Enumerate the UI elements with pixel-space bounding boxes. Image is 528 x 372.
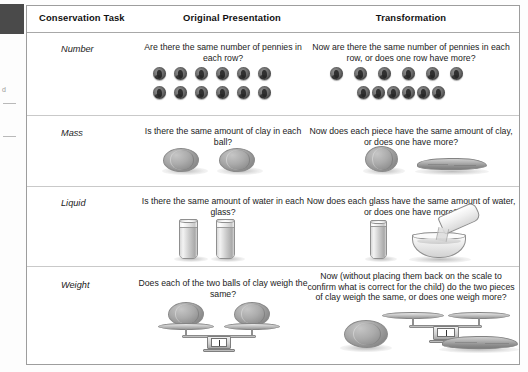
transformation-prompt-liquid: Now does each glass have the same amount… (305, 196, 517, 217)
scan-margin-mark-1: d (2, 86, 6, 94)
scan-corner-block (0, 4, 24, 34)
figure-page: d Conservation Task Original Presentatio… (0, 0, 528, 372)
task-label-weight: Weight (61, 280, 89, 290)
original-prompt-liquid: Is there the same amount of water in eac… (137, 196, 309, 217)
original-prompt-number: Are there the same number of pennies in … (137, 42, 309, 63)
column-header-transformation: Transformation (307, 12, 515, 23)
table-row: Liquid Is there the same amount of water… (27, 186, 519, 266)
table-row: Weight Does each of the two balls of cla… (27, 266, 519, 364)
conservation-task-figure: Conservation Task Original Presentation … (26, 5, 520, 365)
task-label-mass: Mass (61, 128, 83, 138)
original-prompt-weight: Does each of the two balls of clay weigh… (137, 278, 309, 299)
transformation-prompt-number: Now are there the same number of pennies… (305, 42, 517, 63)
scan-margin-rule-2 (3, 136, 16, 137)
original-prompt-mass: Is there the same amount of clay in each… (137, 126, 309, 147)
task-label-number: Number (61, 44, 94, 54)
transformation-prompt-weight: Now (without placing them back on the sc… (305, 271, 517, 303)
scan-margin-rule-1 (3, 103, 16, 104)
table-row: Mass Is there the same amount of clay in… (27, 116, 519, 186)
table-row: Number Are there the same number of penn… (27, 32, 519, 116)
task-label-liquid: Liquid (61, 198, 86, 208)
column-header-original-presentation: Original Presentation (147, 12, 317, 23)
table-header-row: Conservation Task Original Presentation … (27, 6, 519, 32)
transformation-prompt-mass: Now does each piece have the same amount… (305, 126, 517, 147)
